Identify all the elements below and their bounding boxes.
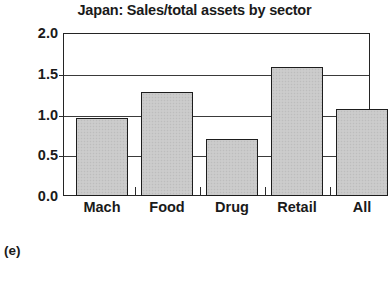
x-tick-label-food: Food (141, 199, 193, 215)
y-tick-label: 1.0 (16, 107, 58, 122)
chart-title: Japan: Sales/total assets by sector (0, 2, 389, 18)
x-tick-mark (200, 187, 201, 196)
y-tick-label: 0.5 (16, 148, 58, 163)
bar-retail (271, 67, 323, 196)
bar-mach (76, 118, 128, 196)
bar-all (336, 109, 388, 196)
figure: Japan: Sales/total assets by sector 0.0 … (0, 0, 389, 292)
bar-drug (206, 139, 258, 196)
x-axis: Mach Food Drug Retail All (63, 199, 370, 225)
x-tick-mark (265, 187, 266, 196)
x-tick-mark (135, 187, 136, 196)
x-tick-label-drug: Drug (206, 199, 258, 215)
x-tick-label-mach: Mach (76, 199, 128, 215)
panel-label: (e) (4, 243, 21, 258)
x-tick-mark (330, 187, 331, 196)
y-tick-label: 2.0 (16, 26, 58, 41)
y-axis: 0.0 0.5 1.0 1.5 2.0 (8, 33, 58, 196)
x-tick-label-all: All (336, 199, 388, 215)
y-tick-label: 1.5 (16, 67, 58, 82)
x-tick-label-retail: Retail (268, 199, 326, 215)
y-tick-label: 0.0 (16, 189, 58, 204)
bar-food (141, 92, 193, 196)
bar-group (63, 33, 370, 196)
